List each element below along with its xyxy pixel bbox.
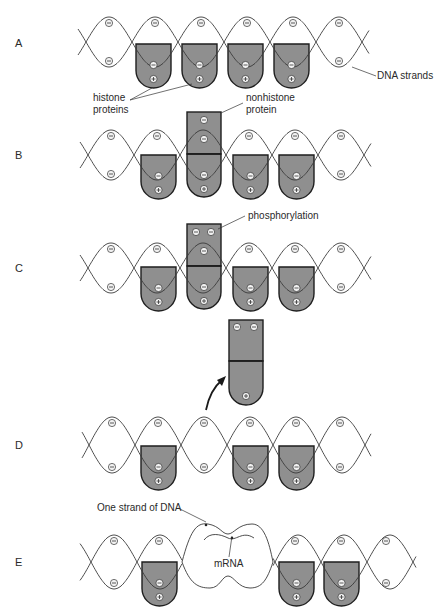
- dna-strand: [82, 417, 371, 473]
- chromatin-diagram: A B C D E DNA strands histone proteins n…: [0, 0, 439, 616]
- dna-strand: [78, 17, 369, 67]
- dna-strands-leader: [352, 67, 376, 76]
- phosphorylation-label: phosphorylation: [248, 210, 319, 221]
- one-strand-label: One strand of DNA: [97, 502, 182, 513]
- one-strand-leader: [178, 508, 206, 522]
- panel-b: [80, 112, 371, 199]
- panel-c: [80, 224, 371, 311]
- dna-strands-label: DNA strands: [377, 70, 433, 81]
- mrna-strand: [204, 535, 254, 541]
- panel-d: [82, 320, 371, 490]
- mrna-label: mRNA: [214, 558, 244, 569]
- release-arrow: [206, 380, 222, 410]
- histone-label-line2: proteins: [93, 104, 129, 115]
- dna-strand: [80, 130, 371, 180]
- phosphorylation-leader: [218, 216, 245, 229]
- panel-a: [78, 17, 369, 88]
- panel-label-e: E: [15, 556, 22, 568]
- dna-open-upper-strand: [182, 524, 273, 562]
- panel-label-c: C: [15, 262, 23, 274]
- nonhistone-protein: [187, 224, 221, 266]
- nonhistone-label-line2: protein: [246, 104, 277, 115]
- nonhistone-label-line1: nonhistone: [246, 92, 295, 103]
- nonhistone-leader: [221, 103, 243, 113]
- histone-label-line1: histone: [93, 92, 126, 103]
- dna-strand: [80, 243, 371, 293]
- panel-e: [80, 524, 416, 606]
- mrna-leader: [229, 536, 232, 557]
- panel-label-d: D: [15, 439, 23, 451]
- panel-label-b: B: [15, 149, 22, 161]
- panel-label-a: A: [15, 37, 23, 49]
